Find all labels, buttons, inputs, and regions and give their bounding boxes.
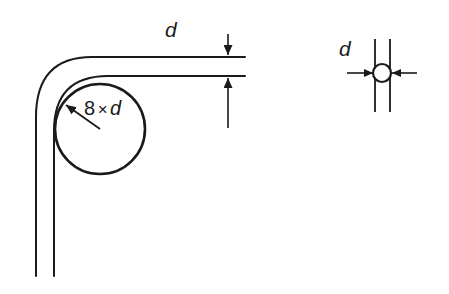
right-figure-group bbox=[347, 39, 417, 112]
label-bend-radius: 8×d bbox=[84, 98, 122, 120]
left-figure-group bbox=[36, 34, 245, 276]
wire-cross-section-circle bbox=[373, 64, 391, 82]
bend-radius-multiplier: 8 bbox=[84, 97, 96, 119]
multiplication-sign-icon: × bbox=[96, 100, 110, 119]
diagram-svg bbox=[0, 0, 449, 294]
label-thickness-d: d bbox=[165, 19, 177, 40]
bend-radius-symbol: d bbox=[110, 97, 122, 119]
label-diameter-d: d bbox=[339, 38, 351, 59]
strip-inner-edge bbox=[54, 76, 245, 276]
diagram-canvas: d d 8×d bbox=[0, 0, 449, 294]
